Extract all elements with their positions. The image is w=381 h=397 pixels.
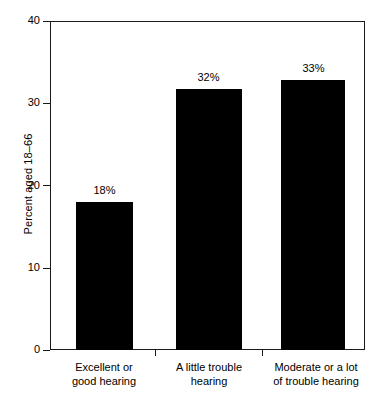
y-tick-label-10: 10 — [0, 262, 40, 273]
x-tick-mark-2 — [262, 350, 263, 356]
bar-excellent-or-good-hearing[interactable] — [76, 202, 133, 350]
y-tick-label-text: 40 — [6, 15, 40, 26]
y-tick-label-text: 10 — [6, 262, 40, 273]
x-tick-mark-1 — [155, 350, 156, 356]
bar-chart: Percent aged 18–66 40 30 20 10 0 18% 32%… — [0, 0, 381, 397]
bar-value-label-2: 32% — [178, 71, 239, 83]
y-tick-mark-20 — [43, 185, 50, 186]
bar-value-label-3: 33% — [283, 62, 344, 74]
x-category-label-3: Moderate or a lot of trouble hearing — [261, 360, 371, 388]
y-tick-mark-30 — [43, 103, 50, 104]
x-category-label-2-line2: hearing — [157, 374, 261, 388]
x-category-label-1-line2: good hearing — [52, 374, 156, 388]
y-tick-mark-40 — [43, 21, 50, 22]
x-category-label-3-line2: of trouble hearing — [261, 374, 371, 388]
bar-a-little-trouble-hearing[interactable] — [176, 89, 242, 350]
y-tick-label-40: 40 — [0, 15, 40, 26]
x-category-label-1: Excellent or good hearing — [52, 360, 156, 388]
y-tick-label-text: 0 — [6, 344, 40, 355]
x-category-label-1-line1: Excellent or — [52, 360, 156, 374]
y-tick-label-30: 30 — [0, 97, 40, 108]
x-category-label-2: A little trouble hearing — [157, 360, 261, 388]
y-tick-label-0: 0 — [0, 344, 40, 355]
y-tick-label-text: 30 — [6, 97, 40, 108]
y-tick-mark-0 — [43, 350, 50, 351]
bar-value-label-1: 18% — [74, 184, 135, 196]
y-tick-mark-10 — [43, 268, 50, 269]
y-tick-label-text: 20 — [6, 180, 40, 191]
x-category-label-3-line1: Moderate or a lot — [261, 360, 371, 374]
bar-moderate-or-a-lot-of-trouble-hearing[interactable] — [281, 80, 345, 350]
x-category-label-2-line1: A little trouble — [157, 360, 261, 374]
y-tick-label-20: 20 — [0, 180, 40, 191]
